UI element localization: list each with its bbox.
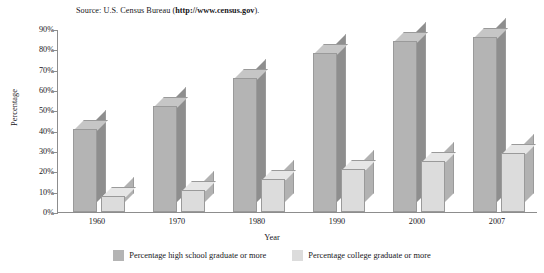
source-note-url: http://www.census.gov [175, 6, 254, 15]
bar-front-face [101, 196, 125, 212]
chart-figure: Source: U.S. Census Bureau (http://www.c… [0, 0, 544, 273]
bar-front-face [73, 129, 97, 212]
bar-front-face [421, 161, 445, 212]
bar-front-face [393, 41, 417, 212]
y-tick-mark [52, 213, 58, 214]
bar-college[interactable] [501, 153, 525, 212]
bar-front-face [153, 106, 177, 212]
x-tick-label: 2007 [489, 217, 505, 226]
legend-entry[interactable]: Percentage college graduate or more [292, 250, 430, 261]
x-axis-title: Year [0, 233, 544, 242]
bar-college[interactable] [341, 169, 365, 212]
bar-front-face [341, 169, 365, 212]
bar-front-face [313, 53, 337, 212]
plot-area: Percentage 0%10%20%30%40%50%60%70%80%90%… [0, 25, 544, 225]
bar-front-face [233, 78, 257, 212]
y-axis-title: Percentage [10, 78, 19, 138]
source-note: Source: U.S. Census Bureau (http://www.c… [76, 6, 259, 15]
bars-layer [57, 25, 537, 213]
bar-high-school[interactable] [233, 78, 257, 212]
bar-college[interactable] [421, 161, 445, 212]
y-axis-tick-labels: 0%10%20%30%40%50%60%70%80%90% [28, 25, 54, 213]
legend-swatch-icon [113, 250, 124, 261]
bar-side-face [364, 150, 374, 203]
bar-high-school[interactable] [473, 37, 497, 212]
bar-front-face [261, 179, 285, 212]
bar-high-school[interactable] [313, 53, 337, 212]
bar-front-face [473, 37, 497, 212]
x-tick-label: 1990 [329, 217, 345, 226]
bar-high-school[interactable] [73, 129, 97, 212]
bar-college[interactable] [181, 190, 205, 212]
bar-group [67, 29, 147, 212]
bar-high-school[interactable] [153, 106, 177, 212]
bar-front-face [501, 153, 525, 212]
source-note-prefix: Source: U.S. Census Bureau ( [76, 6, 175, 15]
x-axis-tick-labels: 196019701980199020002007 [57, 217, 537, 231]
chart-legend: Percentage high school graduate or moreP… [0, 250, 544, 261]
x-tick-label: 1980 [249, 217, 265, 226]
bar-group [387, 29, 467, 212]
bar-college[interactable] [101, 196, 125, 212]
x-tick-label: 1960 [89, 217, 105, 226]
bar-college[interactable] [261, 179, 285, 212]
bar-group [307, 29, 387, 212]
bar-front-face [181, 190, 205, 212]
legend-entry[interactable]: Percentage high school graduate or more [113, 250, 266, 261]
x-tick-label: 2000 [409, 217, 425, 226]
bar-side-face [284, 160, 294, 203]
legend-label: Percentage high school graduate or more [129, 251, 266, 260]
legend-swatch-icon [292, 250, 303, 261]
bar-group [467, 29, 544, 212]
bar-group [227, 29, 307, 212]
x-tick-label: 1970 [169, 217, 185, 226]
bar-group [147, 29, 227, 212]
bar-high-school[interactable] [393, 41, 417, 212]
legend-label: Percentage college graduate or more [308, 251, 430, 260]
source-note-suffix: ). [254, 6, 259, 15]
